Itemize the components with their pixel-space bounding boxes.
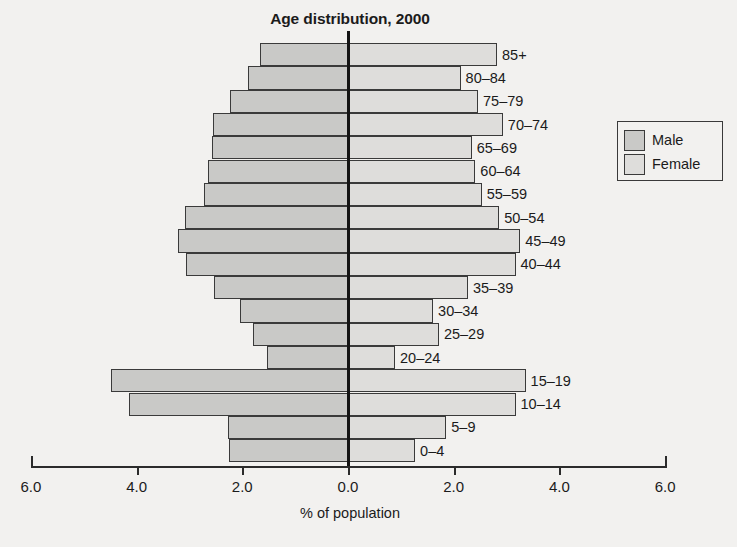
- age-group-label: 80–84: [466, 71, 506, 86]
- bar-female: [348, 113, 503, 136]
- bar-female: [348, 206, 499, 229]
- x-axis-tick-label: 4.0: [112, 478, 162, 495]
- bar-male: [185, 206, 348, 229]
- bar-male: [214, 276, 348, 299]
- bar-female: [348, 90, 478, 113]
- bar-female: [348, 43, 497, 66]
- bar-male: [208, 160, 348, 183]
- age-group-label: 60–64: [480, 164, 520, 179]
- age-group-label: 35–39: [473, 281, 513, 296]
- bar-female: [348, 136, 472, 159]
- age-group-label: 45–49: [525, 234, 565, 249]
- x-axis-tick: [348, 466, 350, 475]
- bar-male: [212, 136, 348, 159]
- bar-male: [230, 90, 348, 113]
- legend-swatch-male: [624, 130, 645, 151]
- bar-male: [186, 253, 348, 276]
- bar-male: [260, 43, 348, 66]
- age-group-label: 50–54: [504, 211, 544, 226]
- legend-swatch-female: [624, 154, 645, 175]
- bar-male: [129, 393, 348, 416]
- age-group-label: 65–69: [477, 141, 517, 156]
- bar-male: [229, 439, 348, 462]
- age-group-label: 70–74: [508, 118, 548, 133]
- x-axis-tick-label: 2.0: [217, 478, 267, 495]
- bar-female: [348, 416, 446, 439]
- age-group-label: 15–19: [531, 374, 571, 389]
- bar-female: [348, 66, 461, 89]
- chart-canvas: Age distribution, 2000 85+80–8475–7970–7…: [0, 0, 737, 547]
- age-group-label: 85+: [502, 48, 527, 63]
- x-axis-tick-label: 0.0: [323, 478, 373, 495]
- bar-male: [204, 183, 348, 206]
- bar-female: [348, 160, 475, 183]
- age-group-label: 30–34: [438, 304, 478, 319]
- x-axis-tick: [137, 466, 139, 475]
- bar-male: [253, 323, 348, 346]
- chart-legend: Male Female: [617, 121, 723, 181]
- bar-male: [213, 113, 348, 136]
- legend-item-male: Male: [624, 130, 683, 151]
- x-axis-tick-label: 6.0: [640, 478, 690, 495]
- legend-item-female: Female: [624, 154, 700, 175]
- legend-label-male: Male: [652, 133, 683, 148]
- bar-male: [228, 416, 348, 439]
- x-axis-tick-label: 6.0: [6, 478, 56, 495]
- age-group-label: 75–79: [483, 94, 523, 109]
- age-group-label: 5–9: [451, 420, 475, 435]
- x-axis-tick: [665, 456, 667, 467]
- center-axis-line: [347, 31, 350, 467]
- bar-male: [178, 229, 348, 252]
- age-group-label: 0–4: [420, 444, 444, 459]
- x-axis-tick-label: 4.0: [534, 478, 584, 495]
- bar-male: [240, 299, 348, 322]
- x-axis-tick: [31, 456, 33, 467]
- bar-female: [348, 183, 482, 206]
- x-axis-tick: [242, 466, 244, 475]
- bar-female: [348, 346, 395, 369]
- x-axis-tick: [454, 466, 456, 475]
- bar-female: [348, 393, 516, 416]
- age-group-label: 20–24: [400, 351, 440, 366]
- bar-female: [348, 439, 415, 462]
- plot-area: 85+80–8475–7970–7465–6960–6455–5950–5445…: [0, 0, 737, 547]
- bar-female: [348, 276, 468, 299]
- age-group-label: 10–14: [521, 397, 561, 412]
- age-group-label: 25–29: [444, 327, 484, 342]
- bar-male: [248, 66, 348, 89]
- x-axis-tick: [559, 466, 561, 475]
- bar-female: [348, 229, 520, 252]
- x-axis-tick-label: 2.0: [429, 478, 479, 495]
- bar-female: [348, 369, 526, 392]
- legend-label-female: Female: [652, 157, 700, 172]
- bar-female: [348, 299, 433, 322]
- bar-male: [111, 369, 348, 392]
- bar-female: [348, 253, 516, 276]
- x-axis-title: % of population: [0, 505, 700, 521]
- age-group-label: 40–44: [521, 257, 561, 272]
- bar-female: [348, 323, 439, 346]
- age-group-label: 55–59: [487, 187, 527, 202]
- bar-male: [267, 346, 348, 369]
